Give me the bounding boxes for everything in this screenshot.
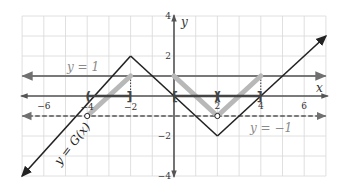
- y-equals-minus-1-label: y = −1: [249, 121, 292, 135]
- function-helper: [131, 16, 326, 116]
- x-tick-label: 2: [215, 101, 221, 111]
- x-tick-label: −2: [124, 102, 137, 112]
- open-circle: [215, 113, 220, 118]
- x-axis-label: x: [316, 81, 323, 95]
- x-tick-label: 4: [258, 101, 264, 111]
- x-tick-label: −6: [37, 101, 51, 111]
- x-tick-label: 6: [301, 101, 307, 111]
- y-tick-label: 2: [165, 51, 171, 61]
- y-axis-label: y: [180, 15, 188, 29]
- y-tick-label: 4: [165, 11, 171, 21]
- y-tick-label: −2: [158, 131, 171, 141]
- x-tick-label: −4: [81, 102, 95, 112]
- graph: (][)(] y = 1 y = −1 y = G(x) x y −6−4−22…: [0, 0, 344, 186]
- y-equals-1-label: y = 1: [66, 60, 99, 74]
- y-tick-label: −4: [158, 171, 172, 181]
- open-circle: [85, 113, 90, 118]
- interval-bracket: [: [172, 89, 178, 104]
